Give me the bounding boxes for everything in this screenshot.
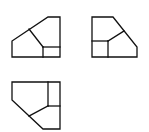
view-top-right — [92, 17, 137, 57]
inner-edge — [29, 106, 48, 116]
diagram-canvas — [0, 0, 149, 132]
view-bottom-left — [12, 82, 60, 129]
view-top-left — [12, 17, 60, 57]
inner-edge — [29, 29, 43, 47]
inner-edge — [108, 31, 124, 41]
